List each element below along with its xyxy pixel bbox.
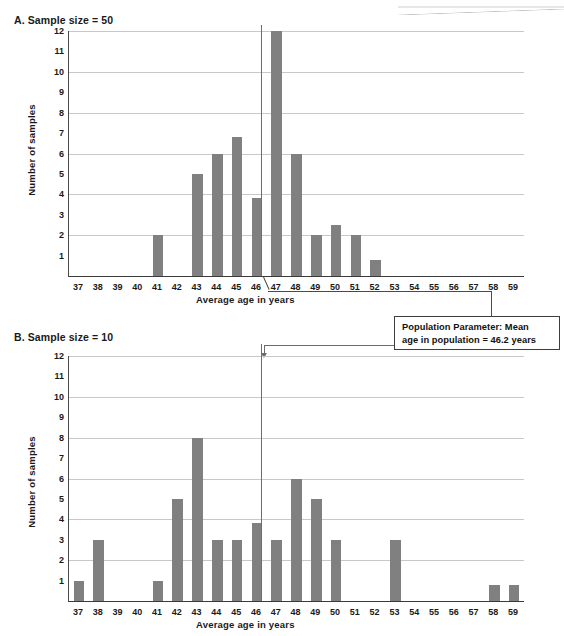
bar-42 bbox=[172, 499, 183, 601]
x-tick-44: 44 bbox=[211, 282, 221, 292]
x-tick-39: 39 bbox=[112, 282, 122, 292]
x-tick-38: 38 bbox=[93, 282, 103, 292]
y-tick-9: 9 bbox=[59, 87, 64, 97]
panel-b-title: B. Sample size = 10 bbox=[14, 331, 113, 343]
bar-52 bbox=[370, 260, 381, 276]
bar-43 bbox=[192, 438, 203, 601]
x-tick-56: 56 bbox=[449, 607, 459, 617]
x-tick-55: 55 bbox=[429, 607, 439, 617]
bar-38 bbox=[93, 540, 104, 601]
y-tick-7: 7 bbox=[59, 128, 64, 138]
y-tick-5: 5 bbox=[59, 169, 64, 179]
y-tick-1: 1 bbox=[59, 251, 64, 261]
x-tick-42: 42 bbox=[172, 607, 182, 617]
figure-page: A. Sample size = 50 Number of samples 12… bbox=[0, 0, 564, 636]
y-tick-6: 6 bbox=[59, 474, 64, 484]
y-tick-2: 2 bbox=[59, 230, 64, 240]
x-tick-59: 59 bbox=[508, 282, 518, 292]
panel-a-reference-line bbox=[261, 25, 262, 276]
y-tick-3: 3 bbox=[59, 535, 64, 545]
panel-a-reference-leader-horizontal bbox=[268, 291, 492, 292]
y-tick-2: 2 bbox=[59, 555, 64, 565]
panel-b: B. Sample size = 10 Number of samples 12… bbox=[0, 322, 564, 636]
x-tick-46: 46 bbox=[251, 282, 261, 292]
bar-59 bbox=[509, 585, 520, 601]
x-tick-43: 43 bbox=[192, 282, 202, 292]
x-tick-45: 45 bbox=[231, 607, 241, 617]
x-tick-58: 58 bbox=[488, 607, 498, 617]
x-tick-41: 41 bbox=[152, 607, 162, 617]
bar-51 bbox=[351, 235, 362, 276]
y-tick-4: 4 bbox=[59, 189, 64, 199]
x-tick-43: 43 bbox=[192, 607, 202, 617]
y-tick-4: 4 bbox=[59, 514, 64, 524]
bar-45 bbox=[232, 540, 243, 601]
x-tick-48: 48 bbox=[290, 607, 300, 617]
bar-44 bbox=[212, 154, 223, 277]
x-tick-49: 49 bbox=[310, 607, 320, 617]
x-tick-40: 40 bbox=[132, 282, 142, 292]
y-tick-7: 7 bbox=[59, 453, 64, 463]
y-tick-12: 12 bbox=[54, 351, 64, 361]
x-tick-52: 52 bbox=[370, 607, 380, 617]
bar-49 bbox=[311, 499, 322, 601]
x-tick-37: 37 bbox=[73, 282, 83, 292]
y-tick-10: 10 bbox=[54, 392, 64, 402]
bar-47 bbox=[271, 540, 282, 601]
y-tick-9: 9 bbox=[59, 412, 64, 422]
bar-50 bbox=[331, 540, 342, 601]
y-tick-3: 3 bbox=[59, 210, 64, 220]
x-tick-45: 45 bbox=[231, 282, 241, 292]
bar-45 bbox=[232, 137, 243, 276]
x-tick-40: 40 bbox=[132, 607, 142, 617]
panel-a: A. Sample size = 50 Number of samples 12… bbox=[0, 0, 564, 310]
x-tick-59: 59 bbox=[508, 607, 518, 617]
x-tick-51: 51 bbox=[350, 607, 360, 617]
panel-a-title: A. Sample size = 50 bbox=[14, 14, 113, 26]
y-tick-8: 8 bbox=[59, 433, 64, 443]
panel-b-plot-area bbox=[68, 356, 524, 602]
y-tick-1: 1 bbox=[59, 576, 64, 586]
bar-43 bbox=[192, 174, 203, 276]
bar-44 bbox=[212, 540, 223, 601]
y-tick-12: 12 bbox=[54, 26, 64, 36]
bar-49 bbox=[311, 235, 322, 276]
y-tick-8: 8 bbox=[59, 108, 64, 118]
panel-a-y-axis-label: Number of samples bbox=[26, 104, 37, 196]
panel-a-x-axis-label: Average age in years bbox=[196, 294, 295, 305]
panel-a-bars bbox=[69, 31, 524, 276]
y-tick-5: 5 bbox=[59, 494, 64, 504]
panel-a-x-ticks: 3738394041424344454647484950515253545556… bbox=[68, 282, 523, 294]
x-tick-44: 44 bbox=[211, 607, 221, 617]
panel-b-y-ticks: 123456789101112 bbox=[44, 356, 64, 601]
panel-b-x-axis-label: Average age in years bbox=[196, 619, 295, 630]
bar-48 bbox=[291, 154, 302, 277]
bar-53 bbox=[390, 540, 401, 601]
panel-a-y-ticks: 123456789101112 bbox=[44, 31, 64, 276]
panel-a-plot-area bbox=[68, 31, 524, 277]
x-tick-53: 53 bbox=[389, 607, 399, 617]
x-tick-42: 42 bbox=[172, 282, 182, 292]
panel-b-x-ticks: 3738394041424344454647484950515253545556… bbox=[68, 607, 523, 619]
y-tick-6: 6 bbox=[59, 149, 64, 159]
bar-41 bbox=[153, 581, 164, 601]
y-tick-10: 10 bbox=[54, 67, 64, 77]
bar-58 bbox=[489, 585, 500, 601]
x-tick-38: 38 bbox=[93, 607, 103, 617]
panel-b-reference-line bbox=[261, 344, 262, 601]
x-tick-37: 37 bbox=[73, 607, 83, 617]
x-tick-50: 50 bbox=[330, 607, 340, 617]
x-tick-57: 57 bbox=[469, 607, 479, 617]
x-tick-46: 46 bbox=[251, 607, 261, 617]
bar-47 bbox=[271, 31, 282, 276]
x-tick-39: 39 bbox=[112, 607, 122, 617]
y-tick-11: 11 bbox=[54, 46, 64, 56]
bar-50 bbox=[331, 225, 342, 276]
bar-41 bbox=[153, 235, 164, 276]
panel-b-y-axis-label: Number of samples bbox=[26, 436, 37, 528]
x-tick-54: 54 bbox=[409, 607, 419, 617]
bar-48 bbox=[291, 479, 302, 602]
y-tick-11: 11 bbox=[54, 371, 64, 381]
panel-a-reference-leader-drop bbox=[491, 291, 492, 316]
x-tick-47: 47 bbox=[271, 607, 281, 617]
